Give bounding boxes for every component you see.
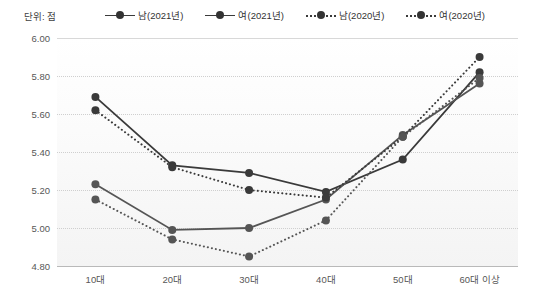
- data-point-marker: [476, 74, 484, 82]
- data-point-marker: [245, 169, 253, 177]
- data-point-marker: [91, 180, 99, 188]
- series-line: [95, 57, 479, 198]
- line-chart: 단위: 점 남(2021년) 여(2021년) 남(2020년) 여(2020년…: [0, 0, 540, 302]
- data-point-marker: [168, 235, 176, 243]
- series-line: [95, 84, 479, 230]
- data-point-marker: [168, 226, 176, 234]
- series-line: [95, 78, 479, 257]
- data-point-marker: [399, 156, 407, 164]
- data-point-marker: [245, 186, 253, 194]
- data-point-marker: [476, 53, 484, 61]
- data-point-marker: [322, 194, 330, 202]
- data-point-marker: [91, 106, 99, 114]
- data-point-marker: [399, 133, 407, 141]
- data-point-marker: [245, 253, 253, 261]
- series-line: [95, 72, 479, 192]
- data-point-marker: [168, 163, 176, 171]
- series-layer: [0, 0, 540, 302]
- data-point-marker: [322, 216, 330, 224]
- data-point-marker: [245, 224, 253, 232]
- data-point-marker: [91, 196, 99, 204]
- data-point-marker: [91, 93, 99, 101]
